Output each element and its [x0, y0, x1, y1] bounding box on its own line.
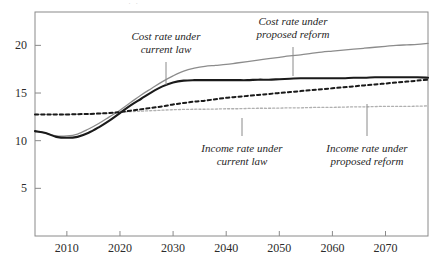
- annotation-label-income-current-law: Income rate under: [200, 142, 283, 154]
- x-tick-label: 2040: [214, 241, 238, 255]
- annotation-label-cost-proposed-reform: Cost rate under: [258, 15, 328, 27]
- y-tick-label: 5: [21, 181, 27, 195]
- x-tick-label: 2050: [267, 241, 291, 255]
- plot-frame: [35, 12, 428, 236]
- annotation-label-income-proposed-reform: Income rate under: [325, 142, 408, 154]
- annotation-label-income-proposed-reform-line2: proposed reform: [330, 155, 404, 167]
- y-tick-label: 20: [15, 38, 27, 52]
- annotation-label-cost-current-law-line2: current law: [141, 43, 192, 55]
- y-axis-tick-labels: 5101520: [15, 38, 27, 195]
- y-tick-label: 15: [15, 86, 27, 100]
- y-tick-label: 10: [15, 134, 27, 148]
- y-axis-tickmarks: [35, 45, 41, 188]
- series-line-cost-rate-under-proposed-reform: [35, 43, 428, 136]
- series-line-cost-rate-under-current-law: [35, 77, 428, 138]
- x-tick-label: 2020: [108, 241, 132, 255]
- series-group: [35, 43, 428, 137]
- x-tick-label: 2030: [161, 241, 185, 255]
- chart-root: · · 5101520 2010202020302040205020602070…: [0, 0, 441, 274]
- x-tick-label: 2060: [320, 241, 344, 255]
- annotation-label-cost-proposed-reform-line2: proposed reform: [256, 28, 330, 40]
- annotation-group: Cost rate undercurrent lawCost rate unde…: [131, 15, 408, 167]
- annotation-label-income-current-law-line2: current law: [217, 155, 268, 167]
- line-chart: 5101520 2010202020302040205020602070 Cos…: [0, 0, 441, 274]
- x-tick-label: 2010: [55, 241, 79, 255]
- x-tick-label: 2070: [374, 241, 398, 255]
- annotation-label-cost-current-law: Cost rate under: [131, 30, 201, 42]
- plot-frame-rect: [35, 12, 428, 236]
- x-axis-tick-labels: 2010202020302040205020602070: [55, 241, 398, 255]
- x-axis-tickmarks: [67, 231, 386, 236]
